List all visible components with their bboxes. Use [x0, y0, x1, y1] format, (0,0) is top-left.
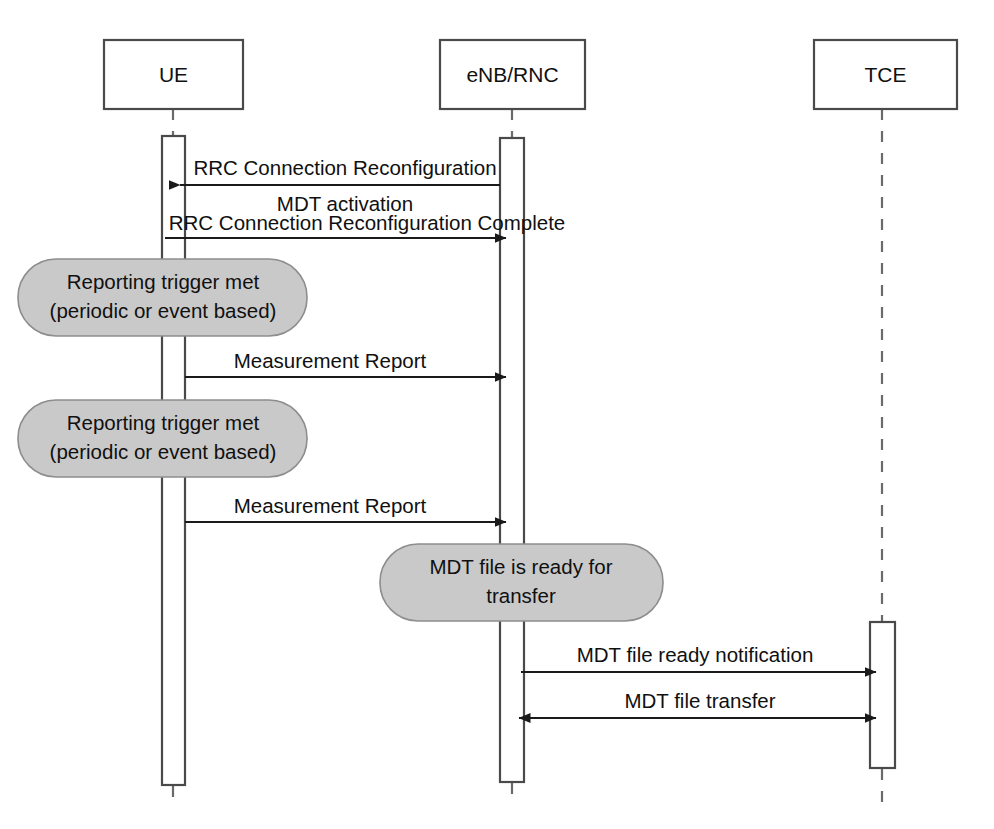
note-line2-1: (periodic or event based) — [50, 299, 277, 322]
message-mdt-file-transfer[interactable]: MDT file transfer — [519, 689, 876, 718]
message-label-m2: RRC Connection Reconfiguration Complete — [169, 211, 566, 234]
note-reporting-trigger-2: Reporting trigger met (periodic or event… — [18, 400, 307, 477]
participant-label-ue: UE — [159, 63, 188, 86]
participant-label-enb: eNB/RNC — [466, 63, 558, 86]
note-line1-1: Reporting trigger met — [67, 270, 260, 293]
message-measurement-report-2[interactable]: Measurement Report — [185, 494, 506, 522]
activation-bar-tce — [870, 622, 895, 768]
note-line1-3: MDT file is ready for — [429, 555, 612, 578]
participant-tce[interactable]: TCE — [814, 40, 957, 109]
sequence-diagram-canvas: UE eNB/RNC TCE RRC Connection Reconfigur… — [0, 0, 994, 829]
message-mdt-file-ready-notification[interactable]: MDT file ready notification — [521, 643, 876, 672]
message-label-m1: RRC Connection Reconfiguration — [193, 156, 496, 179]
note-reporting-trigger-1: Reporting trigger met (periodic or event… — [18, 259, 307, 336]
note-mdt-file-ready: MDT file is ready for transfer — [380, 544, 663, 621]
activation-bar-enb — [500, 138, 524, 782]
message-label-m4: Measurement Report — [234, 494, 427, 517]
note-line2-2: (periodic or event based) — [50, 440, 277, 463]
participant-enb[interactable]: eNB/RNC — [440, 40, 585, 109]
message-measurement-report-1[interactable]: Measurement Report — [185, 349, 506, 377]
message-rrc-connection-reconfiguration[interactable]: RRC Connection Reconfiguration MDT activ… — [180, 156, 500, 215]
message-rrc-connection-reconfiguration-complete[interactable]: RRC Connection Reconfiguration Complete — [165, 211, 565, 238]
note-line2-3: transfer — [486, 584, 556, 607]
message-label-m6: MDT file transfer — [624, 689, 775, 712]
message-label-m5: MDT file ready notification — [577, 643, 814, 666]
participant-ue[interactable]: UE — [104, 40, 243, 109]
message-label-m3: Measurement Report — [234, 349, 427, 372]
note-line1-2: Reporting trigger met — [67, 411, 260, 434]
participant-label-tce: TCE — [865, 63, 907, 86]
sequence-diagram-svg: UE eNB/RNC TCE RRC Connection Reconfigur… — [0, 0, 994, 829]
